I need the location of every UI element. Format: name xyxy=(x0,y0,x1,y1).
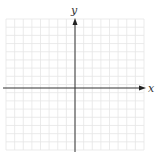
coordinate-plane: x y xyxy=(0,0,155,160)
y-axis-label: y xyxy=(70,4,78,17)
x-axis-arrow-icon xyxy=(139,86,146,91)
x-axis-label: x xyxy=(148,82,155,95)
